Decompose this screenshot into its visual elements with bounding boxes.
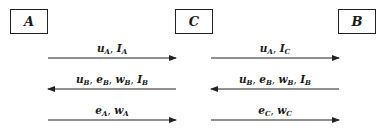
message-label: eC, wC — [258, 104, 292, 120]
message-label: eA, wA — [95, 104, 128, 120]
message-arrows — [0, 0, 382, 135]
message-label: uB, eB, wB, IB — [239, 73, 311, 89]
message-label: uA, IC — [260, 42, 290, 58]
message-label: uA, IA — [97, 42, 127, 58]
message-label: uB, eB, wB, IB — [76, 73, 148, 89]
